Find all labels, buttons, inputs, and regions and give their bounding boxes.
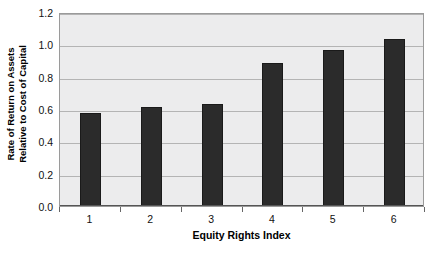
y-tick-label: 0.6 [25,104,57,116]
y-tick-label: 1.0 [25,39,57,51]
x-tick-mark [363,207,364,212]
x-tick-mark [302,207,303,212]
x-axis-baseline [60,205,423,206]
bar [262,63,283,206]
y-axis-title-line-1: Rate of Return on Assets [5,45,17,163]
bar [80,113,101,206]
x-tick-label: 6 [391,213,397,225]
bar [384,39,405,206]
y-tick-label: 0.0 [25,201,57,213]
x-axis-tick-labels: 123456 [59,207,424,231]
x-tick-mark [59,207,60,212]
gridline [60,46,423,47]
x-tick-label: 5 [330,213,336,225]
y-tick-label: 0.8 [25,72,57,84]
gridline [60,143,423,144]
x-tick-mark [424,207,425,212]
bar [202,104,223,206]
y-tick-label: 1.2 [25,7,57,19]
x-tick-mark [120,207,121,212]
gridline [60,14,423,15]
bar [141,107,162,206]
gridline [60,79,423,80]
bar-chart-figure: Rate of Return on Assets Relative to Cos… [0,0,437,257]
x-tick-label: 4 [269,213,275,225]
x-tick-label: 1 [86,213,92,225]
gridline [60,111,423,112]
bar [323,50,344,206]
plot-area [59,13,424,207]
gridline [60,176,423,177]
x-tick-mark [242,207,243,212]
x-tick-label: 2 [147,213,153,225]
x-tick-label: 3 [208,213,214,225]
x-tick-mark [181,207,182,212]
x-axis-title: Equity Rights Index [59,229,424,241]
y-tick-label: 0.4 [25,136,57,148]
y-tick-label: 0.2 [25,169,57,181]
y-axis-tick-labels: 0.00.20.40.60.81.01.2 [25,0,57,257]
